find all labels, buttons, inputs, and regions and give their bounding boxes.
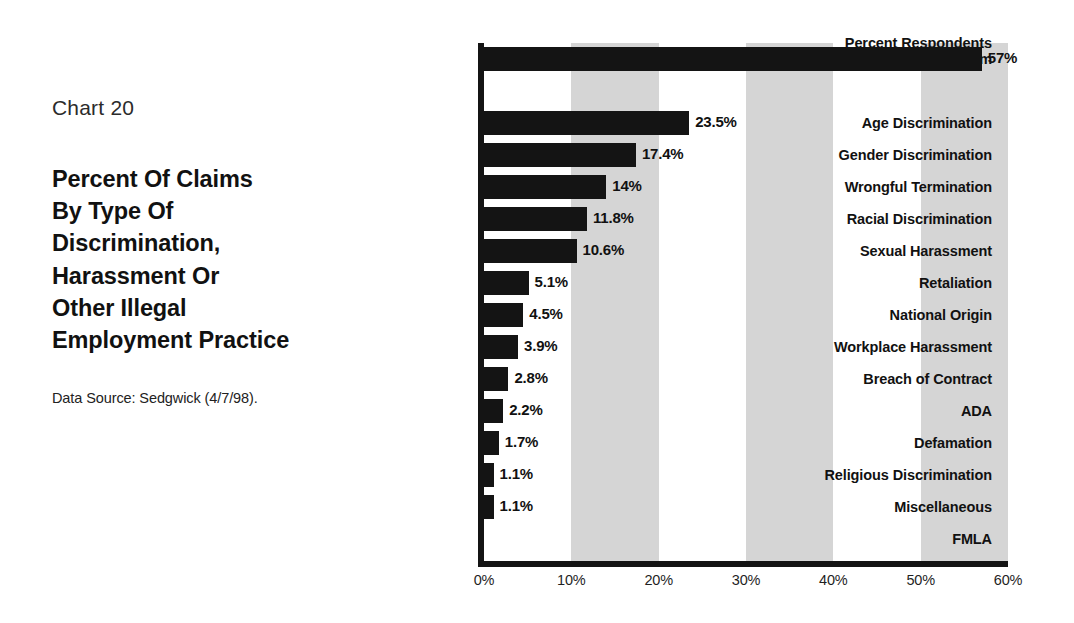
bar-row: Religious Discrimination1.1% [484, 459, 1008, 491]
chart-title-line-3: Discrimination, [52, 227, 320, 259]
bar-value-label: 1.1% [500, 462, 533, 486]
bar-row: FMLA [484, 523, 1008, 555]
bar-value-label: 1.7% [505, 430, 538, 454]
bar-row: Racial Discrimination11.8% [484, 203, 1008, 235]
x-axis-line [478, 561, 1008, 567]
chart-title-line-1: Percent Of Claims [52, 163, 320, 195]
bar-row: Wrongful Termination14% [484, 171, 1008, 203]
bar-value-label: 5.1% [535, 270, 568, 294]
chart-title-line-5: Other Illegal [52, 292, 320, 324]
bar [484, 335, 518, 359]
bar-row: Sexual Harassment10.6% [484, 235, 1008, 267]
category-label: Gender Discrimination [692, 143, 992, 167]
bar-row: ADA2.2% [484, 395, 1008, 427]
bar [484, 143, 636, 167]
bar-value-label: 14% [612, 174, 641, 198]
bar [484, 463, 494, 487]
bar-rows: Percent Respondents Reporting a Claim57%… [484, 43, 1008, 561]
bar-row: National Origin4.5% [484, 299, 1008, 331]
bar [484, 175, 606, 199]
bar-row: Gender Discrimination17.4% [484, 139, 1008, 171]
bar-value-label: 23.5% [695, 110, 737, 134]
bar-value-label: 2.8% [514, 366, 547, 390]
plot-area: Percent Respondents Reporting a Claim57%… [484, 43, 1008, 561]
chart-title-line-6: Employment Practice [52, 324, 320, 356]
category-label: Retaliation [692, 271, 992, 295]
x-tick-label: 50% [906, 572, 934, 588]
bar-value-label: 1.1% [500, 494, 533, 518]
x-tick-label: 60% [994, 572, 1022, 588]
bar [484, 47, 982, 71]
chart-caption-block: Chart 20 Percent Of Claims By Type Of Di… [52, 96, 320, 406]
category-label: Wrongful Termination [692, 175, 992, 199]
x-tick-label: 20% [644, 572, 672, 588]
bar [484, 431, 499, 455]
spacer-row [484, 75, 1008, 107]
bar [484, 303, 523, 327]
bar-row: Defamation1.7% [484, 427, 1008, 459]
category-label: Defamation [692, 431, 992, 455]
bar-value-label: 10.6% [583, 238, 625, 262]
category-label: Age Discrimination [692, 111, 992, 135]
category-label: Workplace Harassment [692, 335, 992, 359]
category-label: Breach of Contract [692, 367, 992, 391]
x-axis-tick-labels: 0%10%20%30%40%50%60% [484, 572, 1008, 596]
category-label: Miscellaneous [692, 495, 992, 519]
bar-value-label: 4.5% [529, 302, 562, 326]
bar-row: Breach of Contract2.8% [484, 363, 1008, 395]
x-tick-label: 40% [819, 572, 847, 588]
bar-value-label: 57% [988, 46, 1017, 70]
bar-row: Age Discrimination23.5% [484, 107, 1008, 139]
bar [484, 271, 529, 295]
bar-row: Retaliation5.1% [484, 267, 1008, 299]
category-label: Racial Discrimination [692, 207, 992, 231]
bar [484, 399, 503, 423]
page-title: Percent Of Claims By Type Of Discriminat… [52, 163, 320, 356]
bar [484, 367, 508, 391]
category-label: ADA [692, 399, 992, 423]
category-label: FMLA [692, 527, 992, 551]
bar-row: Percent Respondents Reporting a Claim57% [484, 43, 1008, 75]
x-tick-label: 0% [474, 572, 495, 588]
bar [484, 495, 494, 519]
bar-value-label: 17.4% [642, 142, 684, 166]
chart-page: Chart 20 Percent Of Claims By Type Of Di… [0, 0, 1074, 623]
bar [484, 207, 587, 231]
chart-title-line-2: By Type Of [52, 195, 320, 227]
bar-row: Miscellaneous1.1% [484, 491, 1008, 523]
category-label: Sexual Harassment [692, 239, 992, 263]
x-tick-label: 10% [557, 572, 585, 588]
category-label: Religious Discrimination [692, 463, 992, 487]
chart-number: Chart 20 [52, 96, 320, 119]
data-source-note: Data Source: Sedgwick (4/7/98). [52, 390, 320, 406]
bar-value-label: 11.8% [593, 206, 634, 230]
bar [484, 239, 577, 263]
bar-value-label: 3.9% [524, 334, 557, 358]
category-label: National Origin [692, 303, 992, 327]
x-tick-label: 30% [732, 572, 760, 588]
chart-title-line-4: Harassment Or [52, 260, 320, 292]
bar [484, 111, 689, 135]
bar-value-label: 2.2% [509, 398, 542, 422]
bar-row: Workplace Harassment3.9% [484, 331, 1008, 363]
